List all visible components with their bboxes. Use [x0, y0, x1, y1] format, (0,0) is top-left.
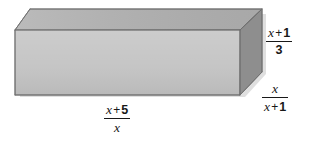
depth-label: x x+1 — [262, 82, 288, 113]
depth-denominator-constant: 1 — [279, 100, 286, 114]
depth-denominator-operator: + — [270, 100, 279, 114]
height-denominator: 3 — [266, 42, 292, 56]
rectangular-prism-drawing — [0, 0, 314, 142]
figure-stage: x+1 3 x x+1 x+5 x — [0, 0, 314, 142]
width-numerator: x+5 — [104, 103, 130, 119]
depth-numerator: x — [262, 82, 288, 98]
height-numerator: x+1 — [266, 26, 292, 42]
width-denominator: x — [104, 119, 130, 134]
width-numerator-constant: 5 — [121, 103, 128, 117]
depth-fraction: x x+1 — [262, 82, 288, 113]
height-fraction: x+1 3 — [266, 26, 292, 56]
height-numerator-operator: + — [274, 26, 283, 40]
width-numerator-operator: + — [112, 103, 121, 117]
top-face-shading — [15, 9, 262, 30]
height-numerator-constant: 1 — [283, 26, 290, 40]
height-label: x+1 3 — [266, 26, 292, 56]
width-fraction: x+5 x — [104, 103, 130, 134]
width-label: x+5 x — [104, 103, 130, 134]
depth-denominator: x+1 — [262, 98, 288, 113]
front-face-shading — [15, 30, 240, 95]
